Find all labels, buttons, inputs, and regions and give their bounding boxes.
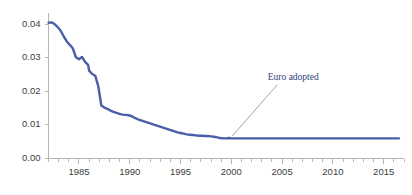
y-axis-tick-label: 0.03 — [22, 51, 41, 62]
x-axis-tick-label: 2015 — [373, 166, 394, 177]
y-axis-tick-label: 0.01 — [22, 118, 41, 129]
y-axis-tick-label: 0.02 — [22, 85, 41, 96]
x-axis-tick-label: 2010 — [322, 166, 343, 177]
y-axis-tick-label: 0.00 — [22, 152, 41, 163]
x-axis-tick-label: 2005 — [272, 166, 293, 177]
x-axis-tick-label: 1990 — [119, 166, 140, 177]
x-axis-tick-label: 2000 — [221, 166, 242, 177]
y-axis-tick-label: 0.04 — [22, 18, 41, 29]
annotation-leader-line — [232, 85, 277, 136]
data-line — [49, 22, 399, 138]
x-axis-tick-label: 1995 — [170, 166, 191, 177]
annotation-label: Euro adopted — [268, 72, 319, 82]
x-axis-tick-label: 1985 — [68, 166, 89, 177]
line-chart: 0.000.010.020.030.0419851990199520002005… — [0, 0, 412, 195]
chart-canvas: 0.000.010.020.030.0419851990199520002005… — [0, 0, 412, 195]
